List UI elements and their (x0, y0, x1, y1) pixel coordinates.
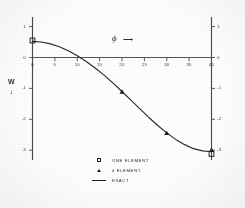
square-marker-icon (86, 158, 112, 161)
x-tick-label-15: 15 (97, 63, 102, 67)
x-tick-label-0: 0 (31, 63, 34, 67)
y-tick-label-left-m3: -3 (15, 148, 26, 152)
x-tick-label-10: 10 (75, 63, 80, 67)
y-tick-label-left-m2: -2 (15, 117, 26, 121)
series-one-element-markers (30, 38, 214, 156)
triangle-marker-icon (86, 169, 112, 172)
x-tick-label-20: 20 (119, 63, 124, 67)
y-tick-label-right-1: 1 (217, 24, 220, 28)
y-tick-label-left-m1: -1 (15, 86, 26, 90)
legend-label-4-element: 4 ELEMENT (112, 168, 141, 173)
y-tick-label-right-m2: -2 (217, 117, 221, 121)
x-tick-label-40: 40 (209, 63, 214, 67)
x-tick-label-35: 35 (186, 63, 191, 67)
series-4-element-markers (120, 89, 215, 151)
line-marker-icon (86, 180, 112, 181)
x-tick-label-30: 30 (164, 63, 169, 67)
x-axis-arrow-icon: ⟶ (123, 36, 133, 44)
figure-container: 0 5 10 15 20 25 30 35 40 1 0 -1 -2 -3 1 … (0, 0, 245, 208)
y-tick-label-left-1: 1 (18, 24, 26, 28)
x-axis-title: ϕ (112, 33, 117, 43)
x-tick-label-25: 25 (142, 63, 147, 67)
y-tick-label-left-0: 0 (18, 55, 26, 59)
legend-label-exact: EXACT (112, 178, 129, 183)
x-tick-label-5: 5 (54, 63, 57, 67)
x-axis-ticks (33, 58, 212, 62)
legend-item-one-element: ONE ELEMENT (86, 155, 149, 165)
legend-item-4-element: 4 ELEMENT (86, 165, 149, 175)
y-axis-arrow-icon: ↓ (10, 88, 14, 95)
legend-item-exact: EXACT (86, 175, 149, 185)
y-tick-label-right-m1: -1 (217, 86, 221, 90)
legend: ONE ELEMENT 4 ELEMENT EXACT (86, 155, 149, 185)
legend-label-one-element: ONE ELEMENT (112, 158, 149, 163)
y-tick-label-right-m3: -3 (217, 148, 221, 152)
data-marker-triangle (209, 147, 214, 151)
y-axis-title: W (8, 78, 15, 85)
y-tick-label-right-0: 0 (217, 55, 220, 59)
